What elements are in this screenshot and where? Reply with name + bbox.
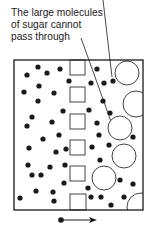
water-molecule [50, 189, 55, 194]
water-molecule [17, 195, 22, 200]
sugar-molecule [108, 116, 132, 140]
water-molecule [35, 98, 40, 103]
water-molecule [88, 80, 93, 85]
water-molecule [51, 90, 56, 95]
membrane-pores [70, 60, 86, 210]
membrane-pore [70, 194, 86, 210]
water-molecule [66, 78, 71, 83]
water-molecule [89, 144, 94, 149]
water-molecule [29, 172, 34, 177]
water-molecule [130, 134, 135, 139]
sugar-molecule [112, 144, 136, 168]
water-molecule [85, 185, 90, 190]
membrane-pore [70, 166, 85, 181]
membrane-pore [70, 60, 85, 75]
water-molecule [25, 162, 30, 167]
pointer-line [103, 0, 112, 77]
water-molecule [29, 114, 34, 119]
water-molecule [100, 98, 105, 103]
water-molecule [107, 110, 112, 115]
water-molecule [130, 181, 135, 186]
water-molecule [49, 119, 54, 124]
water-molecule [98, 194, 103, 199]
water-molecule [121, 194, 126, 199]
flow-arrow-icon [58, 217, 97, 223]
water-molecule [38, 172, 43, 177]
water-molecule [96, 132, 101, 137]
water-molecule [63, 146, 68, 151]
sugar-molecule [123, 91, 149, 117]
pointer-lines [81, 0, 113, 127]
membrane-pore [70, 140, 85, 155]
water-molecule [24, 123, 29, 128]
water-molecule [35, 64, 40, 69]
water-molecule [117, 177, 122, 182]
osmosis-diagram [0, 0, 154, 231]
water-molecule [21, 89, 26, 94]
water-molecule [108, 202, 113, 207]
water-molecule [53, 149, 58, 154]
water-molecule [40, 136, 45, 141]
water-molecule [61, 180, 66, 185]
water-molecule [36, 83, 41, 88]
membrane-pore [70, 87, 85, 102]
water-molecule [57, 66, 62, 71]
sugar-molecule [127, 193, 154, 221]
water-molecule [47, 164, 52, 169]
water-molecule [44, 70, 49, 75]
water-molecule [101, 80, 106, 85]
water-molecule [56, 132, 61, 137]
sugar-molecule [92, 166, 116, 190]
water-molecule [33, 188, 38, 193]
water-molecule [97, 157, 102, 162]
water-molecule [51, 198, 56, 203]
sugar-molecule [115, 61, 139, 85]
water-molecule [24, 72, 29, 77]
water-molecule [60, 108, 65, 113]
water-molecule [88, 194, 93, 199]
water-molecule [62, 162, 67, 167]
water-molecule [106, 142, 111, 147]
water-molecule [86, 107, 91, 112]
water-molecule [26, 145, 31, 150]
water-molecule [94, 66, 99, 71]
water-molecule [94, 120, 99, 125]
water-molecule [110, 78, 115, 83]
membrane-pore [70, 114, 85, 129]
